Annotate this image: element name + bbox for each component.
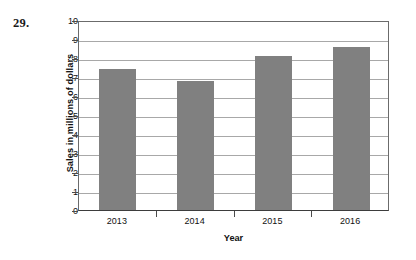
bar xyxy=(333,47,370,210)
bar xyxy=(177,81,214,210)
y-tick-mark xyxy=(72,154,78,155)
y-tick-mark xyxy=(72,97,78,98)
x-tick-label: 2015 xyxy=(242,216,302,226)
y-tick-mark xyxy=(72,211,78,212)
x-axis-title: Year xyxy=(78,233,389,243)
y-tick-mark xyxy=(72,116,78,117)
x-tick-label: 2013 xyxy=(87,216,147,226)
x-tick-mark xyxy=(156,211,157,217)
x-tick-label: 2014 xyxy=(165,216,225,226)
problem-number: 29. xyxy=(13,16,29,31)
bar xyxy=(99,69,136,210)
y-tick-mark xyxy=(72,135,78,136)
x-tick-mark xyxy=(311,211,312,217)
y-tick-mark xyxy=(72,59,78,60)
x-tick-mark xyxy=(234,211,235,217)
y-tick-mark xyxy=(72,40,78,41)
x-tick-label: 2016 xyxy=(320,216,380,226)
y-axis-tick-labels: 109876543210 xyxy=(52,0,78,260)
bar xyxy=(255,56,292,210)
y-tick-mark xyxy=(72,173,78,174)
y-tick-mark xyxy=(72,192,78,193)
plot-area xyxy=(78,21,389,211)
y-tick-mark xyxy=(72,78,78,79)
bars-group xyxy=(79,22,388,210)
bar-chart-figure: 29. Sales in millions of dollars 1098765… xyxy=(0,0,416,260)
y-tick-mark xyxy=(72,21,78,22)
